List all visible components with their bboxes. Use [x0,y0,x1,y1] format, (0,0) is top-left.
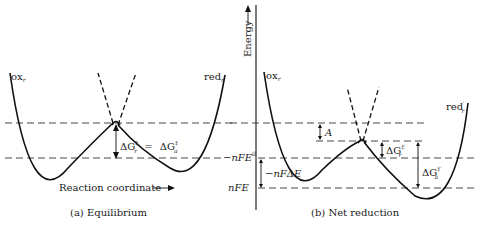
arrow-head-up [318,124,322,128]
panel-b: Energy A ΔG‡′r ΔG‡′a −n [223,5,477,218]
marcus-diagram: oxr redr ΔG‡r = ΔG‡a Reaction coordinate… [0,0,477,227]
x-axis-label: Reaction coordinate [59,182,161,193]
nFE0-label: −nFE0 [223,150,256,163]
dGr-label: ΔG‡′r [386,143,406,158]
panel-a: oxr redr ΔG‡r = ΔG‡a Reaction coordinate… [5,71,235,218]
ox-curve [10,73,113,180]
arrow-head-down [318,136,322,140]
ox-label: oxr [266,70,282,82]
ox-label: oxr [11,71,27,83]
red-label: redr [204,71,225,83]
energy-axis-arrow-head [245,5,251,12]
ox-curve-extension [98,73,113,123]
arrow-head-down [259,184,263,188]
energy-axis-label: Energy [242,20,253,57]
red-curve [364,103,468,199]
barrier-equality-label: ΔG‡r = ΔG‡a [120,139,178,155]
red-prime-label: red′r [446,100,465,114]
arrow-head-up [416,142,420,146]
arrow-head-down [416,184,420,188]
panel-b-caption: (b) Net reduction [311,207,400,218]
ox-curve-extension [347,87,361,141]
red-curve-extension [118,73,136,125]
arrow-head-up [259,159,263,163]
A-label: A [324,127,332,138]
panel-a-caption: (a) Equilibrium [70,207,148,218]
x-axis-arrow-head [168,185,175,191]
delta-E-label: −nFΔE [265,168,302,179]
nFE-label: nFE [228,182,249,193]
red-curve-extension [363,87,379,141]
arrow-head-up [380,142,384,146]
dGa-label: ΔG‡′a [422,165,442,180]
ox-curve [264,72,360,181]
arrow-head-down [380,154,384,158]
